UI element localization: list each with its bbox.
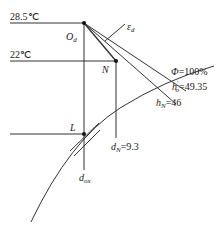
psychrometric-diagram: 28.5℃ 22℃ Od N L εd Φ=100% h′o=49.35 hN=…	[0, 0, 217, 236]
label-h-n: hN=46	[156, 97, 181, 110]
label-n: N	[101, 64, 110, 75]
point-l	[82, 132, 86, 136]
point-o-d	[82, 21, 86, 25]
label-h-o-prime: h′o=49.35	[172, 79, 207, 94]
temp-label-22: 22℃	[10, 49, 31, 60]
label-saturation: Φ=100%	[171, 66, 208, 77]
label-d-n: dN=9.3	[111, 141, 139, 154]
h-o-prime-line	[84, 23, 186, 91]
label-o-d: Od	[66, 31, 77, 44]
label-l: L	[69, 122, 76, 133]
h-n-line	[84, 23, 176, 104]
epsilon-leader-line	[105, 24, 125, 41]
label-epsilon-d: εd	[127, 21, 135, 34]
label-d-ox: dox	[79, 172, 92, 185]
epsilon-process-line	[84, 23, 116, 61]
temp-label-28-5: 28.5℃	[10, 11, 39, 22]
point-n	[114, 59, 118, 63]
